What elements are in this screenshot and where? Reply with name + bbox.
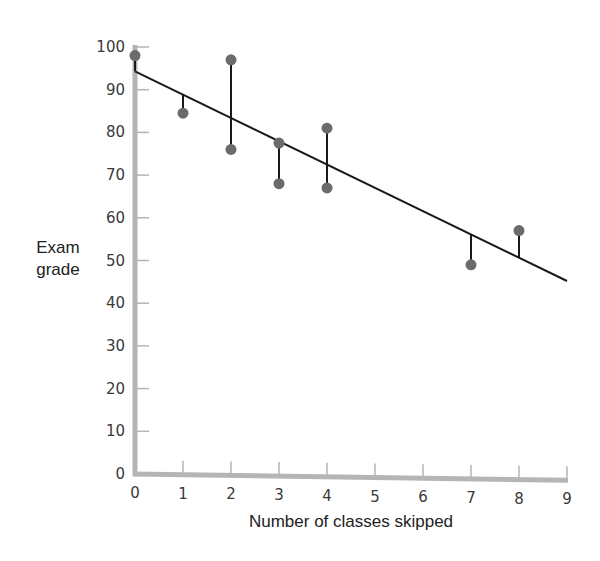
data-point bbox=[178, 108, 189, 119]
y-tick-label: 50 bbox=[106, 252, 125, 270]
regression-line bbox=[135, 71, 567, 281]
y-axis-title-line1: Exam bbox=[36, 238, 79, 257]
y-axis-title-line2: grade bbox=[36, 260, 79, 279]
scatter-chart: 0102030405060708090100 0123456789 Number… bbox=[0, 0, 600, 561]
x-axis bbox=[133, 474, 568, 480]
x-tick-label: 7 bbox=[466, 489, 476, 507]
y-tick-label: 70 bbox=[106, 166, 125, 184]
y-axis-ticks: 0102030405060708090100 bbox=[96, 38, 149, 483]
x-tick-label: 4 bbox=[322, 487, 332, 505]
x-tick-label: 6 bbox=[418, 488, 428, 506]
data-point bbox=[226, 54, 237, 65]
data-point bbox=[130, 50, 141, 61]
x-tick-label: 5 bbox=[370, 488, 380, 506]
x-tick-label: 9 bbox=[562, 490, 572, 508]
data-point bbox=[514, 225, 525, 236]
x-axis-title: Number of classes skipped bbox=[249, 512, 453, 531]
x-tick-label: 2 bbox=[226, 485, 236, 503]
x-axis-ticks: 0123456789 bbox=[130, 461, 572, 509]
y-tick-label: 80 bbox=[106, 123, 125, 141]
y-tick-label: 60 bbox=[106, 209, 125, 227]
y-tick-label: 100 bbox=[96, 38, 125, 56]
residual-lines bbox=[135, 56, 519, 265]
x-tick-label: 0 bbox=[130, 484, 140, 502]
data-point bbox=[466, 259, 477, 270]
data-point bbox=[322, 123, 333, 134]
y-tick-label: 10 bbox=[106, 422, 125, 440]
data-point bbox=[274, 178, 285, 189]
y-tick-label: 30 bbox=[106, 337, 125, 355]
x-tick-label: 8 bbox=[514, 490, 524, 508]
x-tick-label: 1 bbox=[178, 485, 188, 503]
y-tick-label: 40 bbox=[106, 294, 125, 312]
data-point bbox=[322, 182, 333, 193]
y-tick-label: 20 bbox=[106, 380, 125, 398]
data-point bbox=[226, 144, 237, 155]
x-tick-label: 3 bbox=[274, 486, 284, 504]
y-tick-label: 0 bbox=[115, 465, 125, 483]
y-tick-label: 90 bbox=[106, 81, 125, 99]
data-point bbox=[274, 138, 285, 149]
